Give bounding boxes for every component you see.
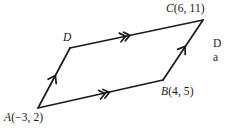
vertex-label-c-coords: (6, 11) <box>174 2 205 14</box>
edge-ad <box>38 48 70 108</box>
geometry-figure: A(−3, 2) B(4, 5) C(6, 11) D D a <box>0 0 226 128</box>
vertex-label-c: C(6, 11) <box>166 3 205 15</box>
parallelogram-drawing <box>0 0 226 128</box>
vertex-label-b: B(4, 5) <box>161 86 194 98</box>
vertex-label-d-point: D <box>63 31 71 43</box>
vertex-label-a-coords: (−3, 2) <box>11 111 43 123</box>
margin-note-line-2: a <box>213 50 226 64</box>
vertex-label-c-point: C <box>166 2 174 14</box>
edge-ad-line <box>38 48 70 108</box>
vertex-label-d: D <box>63 32 71 44</box>
vertex-label-a: A(−3, 2) <box>4 112 43 124</box>
edge-dc <box>70 20 203 48</box>
margin-note-line-1: D <box>213 36 226 50</box>
edge-dc-line <box>70 20 203 48</box>
edge-bc-line <box>163 20 203 80</box>
vertex-label-b-coords: (4, 5) <box>168 85 194 97</box>
edge-bc <box>163 20 203 80</box>
edge-dc-double-chevron-icon <box>119 31 131 42</box>
